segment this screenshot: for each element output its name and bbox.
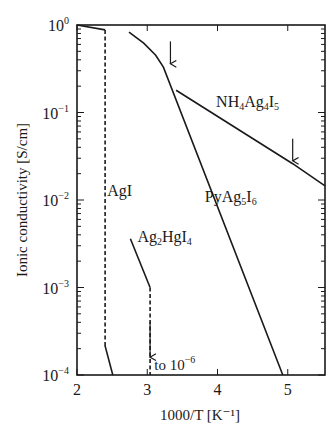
- series-line-ag2hgi4: [130, 239, 150, 288]
- plot-frame: [77, 25, 325, 375]
- conductivity-chart: 234510010−110−210−310−4 AgIAg2HgI4PyAg5I…: [0, 0, 336, 433]
- y-tick-label: 10−3: [42, 278, 69, 297]
- series-label-ag2hgi4: Ag2HgI4: [137, 228, 191, 247]
- y-tick-label: 100: [48, 15, 69, 34]
- series-label-pyag5i6: PyAg5I6: [205, 188, 257, 207]
- series-lines: [77, 25, 325, 375]
- y-axis-label: Ionic conductivity [S/cm]: [14, 123, 30, 277]
- series-line-agi: [105, 346, 113, 375]
- x-tick-label: 3: [143, 381, 151, 398]
- y-tick-label: 10−1: [42, 103, 69, 122]
- x-tick-label: 2: [73, 381, 81, 398]
- series-label-agi: AgI: [107, 182, 132, 200]
- plot-border: [77, 25, 325, 375]
- axis-ticks: [77, 25, 325, 375]
- x-tick-label: 4: [214, 381, 222, 398]
- y-tick-label: 10−2: [42, 190, 69, 209]
- x-axis-label: 1000/T [K⁻¹]: [160, 407, 240, 423]
- annotation-to-1e-6: to 10−6: [154, 354, 195, 373]
- series-labels: AgIAg2HgI4PyAg5I6NH4Ag4I5to 10−6: [107, 93, 279, 373]
- x-tick-label: 5: [284, 381, 292, 398]
- y-tick-label: 10−4: [42, 365, 69, 384]
- series-label-nh4ag4i5: NH4Ag4I5: [216, 93, 279, 112]
